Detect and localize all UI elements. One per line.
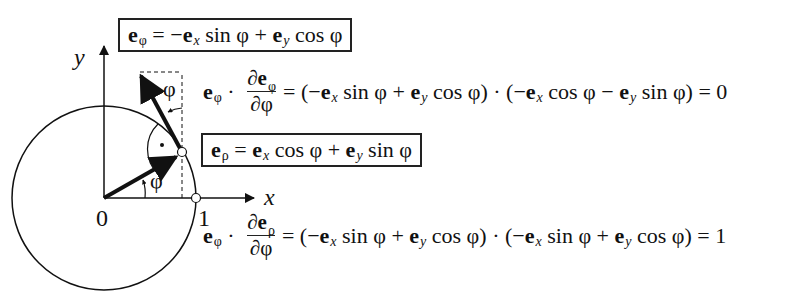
dot-product-equation-1: eφ · ∂eφ ∂φ = (− ex sin φ + ey cos φ) · …	[203, 68, 727, 115]
point-on-circle	[178, 148, 187, 157]
y-axis-label: y	[74, 44, 85, 71]
derivative-fraction: ∂eφ ∂φ	[244, 68, 279, 115]
point-unit-x	[192, 194, 201, 203]
phi-angle-label-base: φ	[150, 168, 163, 194]
phi-arc-top	[168, 108, 182, 112]
phi-angle-label-top: φ	[163, 76, 176, 102]
derivative-fraction: ∂eρ ∂φ	[244, 212, 278, 259]
e-rho-vector	[104, 157, 176, 198]
e-rho-definition: eρ = ex cos φ + ey sin φ	[201, 133, 422, 167]
dot-product-equation-2: eφ · ∂eρ ∂φ = (− ex sin φ + ey cos φ) · …	[203, 212, 726, 259]
phi-arc-base	[143, 180, 145, 198]
right-angle-dot	[160, 143, 164, 147]
e-phi-definition: eφ = − ex sin φ + ey cos φ	[118, 18, 352, 52]
origin-label: 0	[96, 205, 108, 232]
e-phi-vector	[141, 76, 182, 152]
x-axis-label: x	[264, 184, 275, 211]
